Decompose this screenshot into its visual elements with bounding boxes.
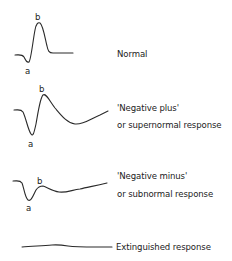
subnormal-label: or subnormal response — [117, 188, 213, 199]
waveforms — [0, 0, 232, 261]
negative-minus-a-label: a — [26, 203, 31, 213]
negative-plus-a-label: a — [28, 139, 33, 149]
negative-plus-b-label: b — [39, 84, 44, 94]
negative-minus-waveform — [13, 181, 107, 201]
normal-b-label: b — [35, 12, 40, 22]
extinguished-waveform — [22, 245, 112, 247]
normal-a-label: a — [25, 66, 30, 76]
normal-label: Normal — [117, 48, 147, 59]
extinguished-label: Extinguished response — [116, 241, 211, 252]
supernormal-label: or supernormal response — [117, 119, 222, 130]
negative-plus-label: 'Negative plus' — [117, 102, 179, 113]
negative-minus-label: 'Negative minus' — [117, 170, 187, 181]
negative-plus-waveform — [14, 95, 108, 135]
negative-minus-b-label: b — [37, 176, 42, 186]
normal-waveform — [15, 23, 73, 63]
erg-waveform-diagram: b a b a b a Normal 'Negative plus' or su… — [0, 0, 232, 261]
